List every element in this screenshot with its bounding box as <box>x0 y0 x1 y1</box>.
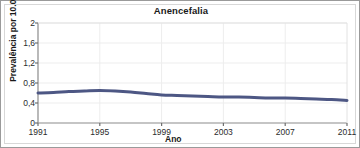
line-chart-svg <box>1 1 360 148</box>
series-line-0 <box>38 91 347 101</box>
vertical-gridlines <box>100 23 285 123</box>
axis-lines <box>38 23 347 123</box>
chart-figure: Anencefalia Prevalência por 10.000 Ano 0… <box>0 0 360 148</box>
plot-area <box>1 1 360 148</box>
axis-tick-marks <box>35 23 347 126</box>
data-series-lines <box>38 91 347 101</box>
